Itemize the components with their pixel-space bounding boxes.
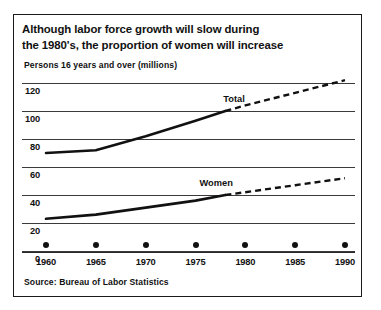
gridline [22, 195, 355, 196]
gridline [22, 139, 355, 140]
x-axis-tick-marker [93, 242, 99, 248]
x-axis-tick-marker [143, 242, 149, 248]
x-axis-tick-label: 1990 [323, 257, 367, 267]
source-note: Source: Bureau of Labor Statistics [24, 277, 169, 287]
x-axis-tick-label: 1980 [223, 257, 267, 267]
x-axis-tick-label: 1965 [74, 257, 118, 267]
y-axis-tick-label: 120 [14, 86, 40, 96]
gridline [22, 83, 355, 84]
series-label-women: Women [199, 178, 232, 188]
chart-title-line-1: Although labor force growth will slow du… [22, 22, 352, 38]
chart-title-line-2: the 1980's, the proportion of women will… [22, 38, 352, 54]
chart-subtitle: Persons 16 years and over (millions) [24, 60, 177, 70]
x-axis-tick-label: 1960 [24, 257, 68, 267]
x-axis-tick-marker [43, 242, 49, 248]
gridline [22, 111, 355, 112]
x-axis-line [22, 252, 355, 253]
series-label-total: Total [223, 94, 245, 104]
chart-title: Although labor force growth will slow du… [22, 22, 352, 53]
x-axis-tick-label: 1975 [174, 257, 218, 267]
x-axis-tick-label: 1970 [124, 257, 168, 267]
y-axis-tick-label: 100 [14, 114, 40, 124]
y-axis-tick-label: 20 [14, 226, 40, 236]
x-axis-tick-label: 1985 [273, 257, 317, 267]
y-axis-tick-label: 80 [14, 142, 40, 152]
x-axis-tick-marker [193, 242, 199, 248]
gridline [22, 223, 355, 224]
x-axis-tick-marker [342, 242, 348, 248]
chart-frame [13, 14, 362, 297]
y-axis-tick-label: 40 [14, 198, 40, 208]
y-axis-tick-label: 60 [14, 170, 40, 180]
gridline [22, 167, 355, 168]
